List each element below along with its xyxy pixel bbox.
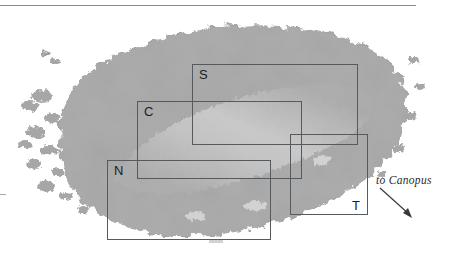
region-box-n[interactable]: [107, 160, 271, 240]
region-label-n: N: [114, 164, 124, 177]
region-map-figure: S C N T to Canopus: [0, 0, 449, 260]
canopus-annotation-label: to Canopus: [376, 174, 432, 186]
region-label-s: S: [199, 68, 208, 81]
region-label-c: C: [144, 105, 154, 118]
scale-bar-marker: [209, 240, 223, 243]
canopus-arrow-icon: [378, 186, 426, 222]
region-label-t: T: [352, 199, 360, 212]
